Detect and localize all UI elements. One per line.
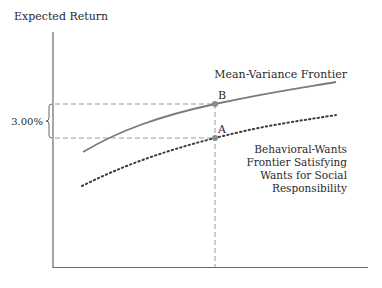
mean-variance-frontier-label: Mean-Variance Frontier <box>214 68 347 81</box>
point-b-label: B <box>218 89 226 102</box>
bracket-icon <box>46 104 52 138</box>
mean-variance-frontier-curve <box>83 82 336 152</box>
behavioral-label-line-1: Behavioral-Wants <box>254 143 347 155</box>
bracket-value: 3.00% <box>11 116 43 127</box>
behavioral-label-line-2: Frontier Satisfying <box>246 156 347 168</box>
behavioral-label-line-3: Wants for Social <box>260 169 347 181</box>
frontier-chart: Expected Return 3.00% B A Mean-Variance … <box>0 0 382 288</box>
y-axis-label: Expected Return <box>14 10 108 23</box>
point-a-label: A <box>217 123 227 136</box>
behavioral-label-line-4: Responsibility <box>272 182 347 194</box>
